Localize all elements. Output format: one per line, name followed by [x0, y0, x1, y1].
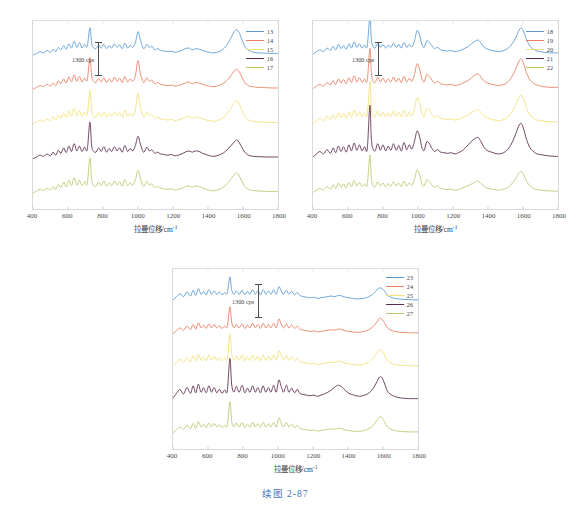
scale-bar-2: 1300 cps [352, 42, 379, 76]
legend-item-23[interactable]: 23 [386, 274, 413, 281]
spectrum-trace-26 [173, 358, 418, 398]
legend-item-22[interactable]: 22 [526, 64, 553, 71]
x-axis-title-1: 拉曼位移/cm-1 [32, 223, 279, 234]
legend-item-18[interactable]: 18 [526, 28, 553, 35]
x-tick-label-400: 400 [167, 452, 178, 460]
x-tick-label-1800: 1800 [272, 212, 286, 220]
legend-item-26[interactable]: 26 [386, 301, 413, 308]
x-tick-label-1200: 1200 [166, 212, 180, 220]
legend-3: 2324252627 [386, 274, 413, 317]
legend-label: 20 [547, 46, 553, 53]
scale-bar-line [98, 42, 99, 76]
x-tick-label-1400: 1400 [341, 452, 355, 460]
scale-bar-label: 1300 cps [232, 298, 254, 305]
legend-label: 22 [547, 64, 553, 71]
plot-area-2 [312, 20, 559, 210]
x-axis-title-text: 拉曼位移/cm [274, 465, 313, 474]
x-tick-label-1000: 1000 [131, 212, 145, 220]
x-axis-title-exponent: -1 [313, 464, 318, 470]
spectrum-trace-20 [313, 81, 558, 123]
legend-label: 13 [267, 28, 273, 35]
legend-color-swatch [386, 313, 404, 314]
legend-label: 18 [547, 28, 553, 35]
spectrum-trace-19 [313, 48, 558, 88]
plot-area-1 [32, 20, 279, 210]
legend-1: 1314151617 [246, 28, 273, 71]
legend-color-swatch [386, 277, 404, 278]
chart-panel-1: 1300 cps 1314151617 40060080010001200140… [10, 14, 285, 248]
x-tick-label-1600: 1600 [237, 212, 251, 220]
legend-item-17[interactable]: 17 [246, 64, 273, 71]
legend-color-swatch [386, 304, 404, 305]
spectrum-trace-22 [313, 155, 558, 192]
legend-color-swatch [246, 40, 264, 41]
spectrum-trace-18 [313, 21, 558, 54]
legend-item-14[interactable]: 14 [246, 37, 273, 44]
x-tick-label-1400: 1400 [481, 212, 495, 220]
spectra-svg-2 [313, 21, 558, 209]
x-axis-title-2: 拉曼位移/cm-1 [312, 223, 559, 234]
legend-color-swatch [246, 58, 264, 59]
x-tick-label-600: 600 [342, 212, 353, 220]
spectrum-trace-17 [33, 158, 278, 193]
x-tick-label-800: 800 [97, 212, 108, 220]
legend-item-13[interactable]: 13 [246, 28, 273, 35]
legend-item-21[interactable]: 21 [526, 55, 553, 62]
x-axis-title-exponent: -1 [173, 224, 178, 230]
x-tick-label-1600: 1600 [517, 212, 531, 220]
legend-label: 16 [267, 55, 273, 62]
legend-color-swatch [526, 67, 544, 68]
legend-item-19[interactable]: 19 [526, 37, 553, 44]
scale-bar-label: 1300 cps [352, 56, 374, 63]
legend-label: 19 [547, 37, 553, 44]
legend-label: 15 [267, 46, 273, 53]
spectrum-trace-27 [173, 402, 418, 433]
x-tick-label-1000: 1000 [411, 212, 425, 220]
x-tick-label-1600: 1600 [377, 452, 391, 460]
x-tick-label-1800: 1800 [412, 452, 426, 460]
x-tick-label-800: 800 [237, 452, 248, 460]
spectrum-trace-15 [33, 91, 278, 124]
x-tick-label-1200: 1200 [306, 452, 320, 460]
legend-color-swatch [526, 40, 544, 41]
chart-panel-2: 1300 cps 1819202122 40060080010001200140… [290, 14, 565, 248]
spectrum-trace-25 [173, 334, 418, 366]
x-axis-title-3: 拉曼位移/cm-1 [172, 463, 419, 474]
figure-page: 1300 cps 1314151617 40060080010001200140… [0, 0, 570, 509]
spectrum-trace-23 [173, 277, 418, 300]
figure-caption: 续图 2-87 [0, 486, 570, 500]
legend-item-27[interactable]: 27 [386, 310, 413, 317]
x-tick-label-1800: 1800 [552, 212, 566, 220]
scale-bar-1: 1300 cps [72, 42, 99, 76]
scale-bar-3: 1300 cps [232, 284, 259, 318]
legend-label: 21 [547, 55, 553, 62]
legend-color-swatch [386, 286, 404, 287]
legend-color-swatch [526, 49, 544, 50]
spectrum-trace-24 [173, 307, 418, 334]
legend-color-swatch [386, 295, 404, 296]
spectra-svg-1 [33, 21, 278, 209]
legend-color-swatch [246, 49, 264, 50]
legend-label: 14 [267, 37, 273, 44]
legend-label: 24 [407, 283, 413, 290]
legend-label: 23 [407, 274, 413, 281]
legend-item-16[interactable]: 16 [246, 55, 273, 62]
legend-label: 17 [267, 64, 273, 71]
spectrum-trace-16 [33, 122, 278, 159]
legend-label: 26 [407, 301, 413, 308]
x-tick-label-1400: 1400 [201, 212, 215, 220]
legend-label: 27 [407, 310, 413, 317]
spectra-svg-3 [173, 269, 418, 449]
scale-bar-line [258, 284, 259, 318]
legend-item-25[interactable]: 25 [386, 292, 413, 299]
legend-item-20[interactable]: 20 [526, 46, 553, 53]
x-tick-label-600: 600 [62, 212, 73, 220]
legend-item-24[interactable]: 24 [386, 283, 413, 290]
spectrum-trace-14 [33, 58, 278, 90]
chart-panel-3: 1300 cps 2324252627 40060080010001200140… [150, 262, 425, 488]
legend-item-15[interactable]: 15 [246, 46, 273, 53]
plot-area-3 [172, 268, 419, 450]
legend-color-swatch [526, 58, 544, 59]
legend-color-swatch [246, 31, 264, 32]
x-tick-label-400: 400 [27, 212, 38, 220]
